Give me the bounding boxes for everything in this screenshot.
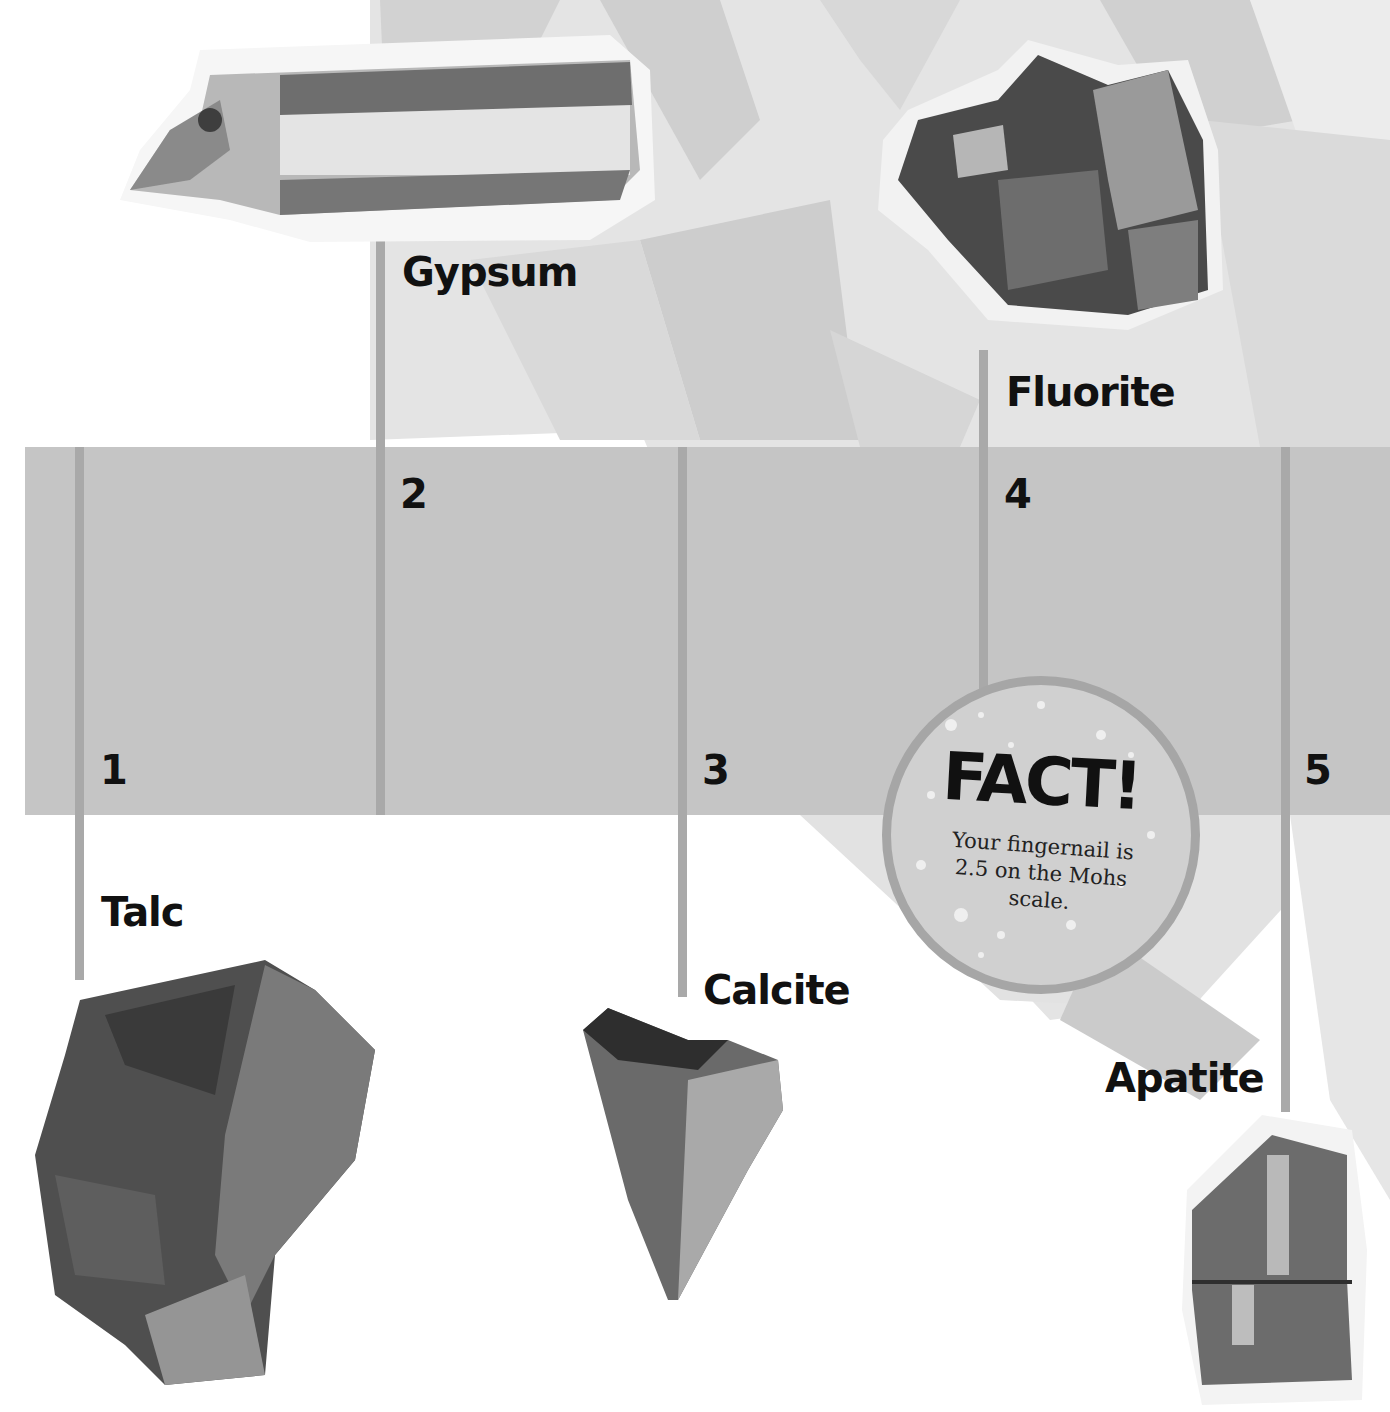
scale-line-3 — [678, 447, 687, 997]
talc-mineral-image — [15, 955, 385, 1385]
apatite-crystal-image — [1172, 1110, 1372, 1412]
mineral-label-talc: Talc — [101, 892, 184, 932]
scale-line-5 — [1281, 447, 1290, 1112]
mineral-label-apatite: Apatite — [1105, 1058, 1264, 1098]
calcite-crystal-image — [578, 1000, 788, 1300]
fact-title: FACT! — [889, 735, 1193, 828]
scale-number-2: 2 — [400, 474, 428, 514]
mineral-label-gypsum: Gypsum — [402, 252, 578, 292]
scale-number-5: 5 — [1304, 750, 1332, 790]
scale-number-1: 1 — [100, 750, 128, 790]
gypsum-crystal-image — [110, 30, 670, 245]
mineral-label-calcite: Calcite — [703, 970, 850, 1010]
scale-number-3: 3 — [702, 750, 730, 790]
scale-line-1 — [75, 447, 84, 980]
scale-number-4: 4 — [1004, 474, 1032, 514]
scale-line-2 — [376, 240, 385, 815]
fluorite-crystal-image — [868, 30, 1238, 340]
scale-line-4 — [979, 350, 988, 690]
mineral-label-fluorite: Fluorite — [1006, 372, 1175, 412]
fact-text: Your fingernail is 2.5 on the Mohs scale… — [928, 825, 1153, 921]
fact-callout: FACT! Your fingernail is 2.5 on the Mohs… — [882, 676, 1200, 994]
